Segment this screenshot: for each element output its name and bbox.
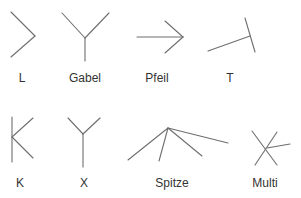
- junction-gabel: Gabel: [62, 13, 109, 85]
- junction-line: [252, 131, 277, 165]
- junction-label: Multi: [252, 176, 277, 190]
- junction-label: Gabel: [69, 71, 101, 85]
- junction-l: L: [11, 12, 35, 85]
- junction-line: [85, 13, 109, 38]
- junction-label: T: [226, 71, 234, 85]
- junction-label: L: [19, 71, 26, 85]
- junction-line: [128, 128, 168, 160]
- junction-x: X: [68, 118, 100, 190]
- junction-line: [12, 137, 33, 158]
- junction-label: Spitze: [155, 176, 189, 190]
- junction-label: Pfeil: [145, 71, 168, 85]
- junction-t: T: [208, 18, 255, 85]
- junction-label: K: [16, 176, 24, 190]
- junction-line: [165, 21, 183, 37]
- junction-line: [11, 36, 35, 57]
- junction-line: [208, 36, 250, 51]
- junction-line: [68, 118, 83, 134]
- junction-line: [159, 128, 168, 161]
- junction-line: [11, 12, 35, 36]
- junction-pfeil: Pfeil: [137, 21, 183, 85]
- junction-line: [62, 13, 85, 38]
- junction-spitze: Spitze: [128, 128, 228, 190]
- junction-line: [83, 118, 100, 134]
- junction-label: X: [80, 176, 88, 190]
- junction-multi: Multi: [252, 131, 290, 190]
- junction-line: [165, 37, 183, 53]
- junction-line: [267, 144, 290, 148]
- junction-line: [245, 18, 255, 52]
- junction-types-diagram: LGabelPfeilTKXSpitzeMulti: [0, 0, 301, 198]
- junction-line: [12, 118, 33, 137]
- junction-k: K: [12, 117, 33, 190]
